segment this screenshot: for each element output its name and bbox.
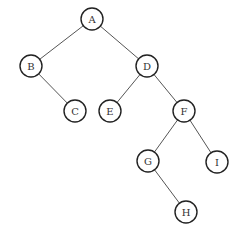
tree-node-f: F bbox=[173, 100, 195, 122]
binary-tree-diagram: A B C D E F G I H bbox=[0, 0, 240, 234]
node-label: H bbox=[182, 207, 191, 218]
tree-node-h: H bbox=[175, 201, 197, 223]
tree-node-i: I bbox=[206, 151, 228, 173]
tree-node-e: E bbox=[99, 100, 121, 122]
node-label: I bbox=[215, 157, 219, 168]
node-label: G bbox=[144, 156, 152, 167]
tree-nodes: A B C D E F G I H bbox=[20, 8, 228, 223]
tree-node-b: B bbox=[20, 55, 42, 77]
tree-node-g: G bbox=[137, 150, 159, 172]
node-label: C bbox=[71, 106, 79, 117]
tree-node-c: C bbox=[64, 100, 86, 122]
node-label: B bbox=[27, 61, 34, 72]
tree-node-d: D bbox=[136, 55, 158, 77]
node-label: F bbox=[181, 106, 188, 117]
node-label: E bbox=[106, 106, 113, 117]
tree-node-a: A bbox=[81, 8, 103, 30]
node-label: A bbox=[87, 14, 96, 25]
node-label: D bbox=[143, 61, 151, 72]
